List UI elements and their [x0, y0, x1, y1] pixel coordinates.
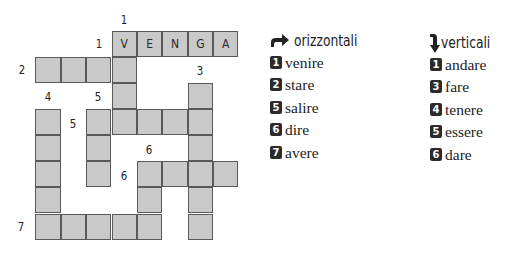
crossword-cell[interactable] [35, 161, 60, 187]
legend-down-item: 6 dare [430, 143, 501, 166]
arrow-right-curved-icon [270, 34, 290, 48]
legend-down: verticali 1 andare 3 fare 4 tenere 5 ess… [430, 33, 501, 166]
legend-across-header: orizzontali [270, 31, 371, 51]
legend-down-item: 1 andare [430, 53, 501, 76]
clue-word: salire [285, 100, 319, 116]
clue-word: dire [285, 122, 309, 138]
crossword-cell[interactable] [35, 57, 60, 83]
clue-badge: 1 [430, 58, 442, 71]
crossword-cell[interactable] [213, 161, 238, 187]
legend-across-item: 1 venire [270, 51, 371, 74]
crossword-cell[interactable] [86, 161, 111, 187]
crossword-cell[interactable] [61, 214, 86, 240]
crossword-cell[interactable] [35, 135, 60, 161]
clue-number-across-6: 6 [121, 169, 127, 183]
clue-number-across-7: 7 [18, 220, 24, 234]
legend-across-title: orizzontali [294, 32, 357, 50]
crossword-cell[interactable]: A [213, 31, 238, 57]
clue-badge: 5 [270, 101, 282, 114]
clue-number-across-2: 2 [19, 63, 25, 77]
legend-across-item: 6 dire [270, 119, 371, 142]
clue-badge: 1 [270, 56, 282, 69]
crossword-cell[interactable] [137, 187, 162, 213]
clue-badge: 4 [430, 103, 442, 116]
crossword-cell[interactable]: G [188, 31, 213, 57]
crossword-cell[interactable] [188, 83, 213, 109]
clue-number-down-6: 6 [146, 143, 152, 157]
legend-down-item: 3 fare [430, 76, 501, 99]
crossword-cell[interactable] [86, 109, 111, 135]
clue-number-down-1: 1 [121, 13, 127, 27]
clue-word: stare [285, 77, 314, 93]
clue-word: fare [445, 79, 469, 95]
crossword-grid: 1 1 2 3 4 5 5 6 6 7 V E N G A [0, 0, 260, 254]
clue-word: dare [445, 147, 472, 163]
clue-badge: 6 [270, 123, 282, 136]
crossword-cell[interactable] [35, 187, 60, 213]
clue-word: essere [445, 124, 483, 140]
crossword-cell[interactable] [112, 83, 137, 109]
crossword-cell[interactable] [86, 57, 111, 83]
clue-word: tenere [445, 102, 483, 118]
clue-number-across-5: 5 [70, 117, 76, 131]
crossword-cell[interactable] [137, 214, 162, 240]
clue-badge: 3 [430, 80, 442, 93]
legend-down-item: 4 tenere [430, 98, 501, 121]
legend-across-item: 2 stare [270, 74, 371, 97]
crossword-cell[interactable] [112, 214, 137, 240]
clue-number-down-5: 5 [95, 90, 101, 104]
crossword-cell[interactable] [137, 109, 162, 135]
clue-badge: 2 [270, 78, 282, 91]
crossword-cell[interactable]: E [137, 31, 162, 57]
crossword-cell[interactable]: N [162, 31, 187, 57]
legend-across-item: 7 avere [270, 141, 371, 164]
crossword-cell[interactable] [86, 214, 111, 240]
crossword-cell[interactable] [35, 214, 60, 240]
clue-word: avere [285, 145, 319, 161]
legend-across-item: 5 salire [270, 96, 371, 119]
crossword-cell[interactable] [86, 135, 111, 161]
arrow-down-curved-icon [430, 34, 440, 53]
clue-number-across-1: 1 [96, 37, 102, 51]
clue-number-down-4: 4 [45, 90, 51, 104]
clue-badge: 5 [430, 125, 442, 138]
crossword-cell[interactable] [162, 161, 187, 187]
clue-word: andare [445, 57, 486, 73]
crossword-cell[interactable] [188, 135, 213, 161]
legend-across: orizzontali 1 venire 2 stare 5 salire 6 … [270, 31, 371, 164]
crossword-cell[interactable] [188, 214, 213, 240]
crossword-cell[interactable] [137, 161, 162, 187]
crossword-cell[interactable] [162, 109, 187, 135]
clue-word: venire [285, 55, 324, 71]
crossword-cell[interactable] [112, 57, 137, 83]
clue-badge: 7 [270, 146, 282, 159]
crossword-cell[interactable] [188, 161, 213, 187]
legend-down-header: verticali [430, 33, 501, 53]
legend-down-item: 5 essere [430, 121, 501, 144]
crossword-cell[interactable] [35, 109, 60, 135]
clue-number-down-3: 3 [197, 64, 203, 78]
clue-badge: 6 [430, 148, 442, 161]
crossword-cell[interactable] [188, 109, 213, 135]
legend-down-title: verticali [441, 34, 490, 52]
crossword-cell[interactable]: V [112, 31, 137, 57]
crossword-cell[interactable] [61, 57, 86, 83]
crossword-cell[interactable] [112, 109, 137, 135]
crossword-cell[interactable] [188, 187, 213, 213]
